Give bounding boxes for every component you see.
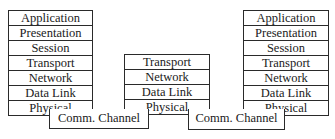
- layer-session: Session: [244, 41, 328, 56]
- right-protocol-stack: Application Presentation Session Transpo…: [243, 10, 329, 116]
- comm-channel-label: Comm. Channel: [58, 111, 140, 125]
- comm-channel-label: Comm. Channel: [196, 111, 278, 125]
- layer-network: Network: [125, 70, 209, 85]
- layer-network: Network: [244, 71, 328, 86]
- comm-channel-left: Comm. Channel: [49, 109, 149, 129]
- layer-presentation: Presentation: [9, 26, 92, 41]
- layer-application: Application: [244, 11, 328, 26]
- layer-presentation: Presentation: [244, 26, 328, 41]
- layer-data-link: Data Link: [125, 85, 209, 100]
- layer-network: Network: [9, 71, 92, 86]
- middle-protocol-stack: Transport Network Data Link Physical: [124, 54, 210, 115]
- comm-channel-right: Comm. Channel: [188, 109, 285, 130]
- left-protocol-stack: Application Presentation Session Transpo…: [8, 10, 93, 116]
- layer-transport: Transport: [125, 55, 209, 70]
- layer-data-link: Data Link: [9, 86, 92, 101]
- layer-transport: Transport: [244, 56, 328, 71]
- layer-data-link: Data Link: [244, 86, 328, 101]
- layer-transport: Transport: [9, 56, 92, 71]
- layer-session: Session: [9, 41, 92, 56]
- layer-application: Application: [9, 11, 92, 26]
